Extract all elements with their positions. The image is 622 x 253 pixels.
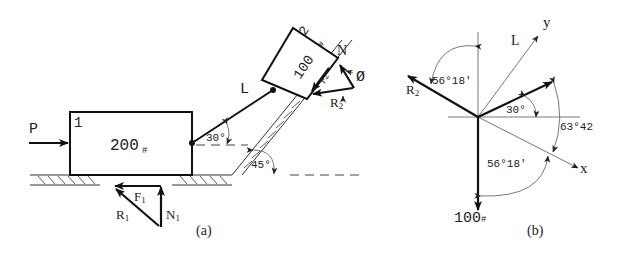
caption-a: (a) <box>196 223 212 239</box>
angle-45-label: 45° <box>251 159 271 171</box>
block-1: 1 200 # <box>70 112 192 175</box>
angle-30-label: 30° <box>206 132 226 144</box>
phi-label: Ø <box>356 69 365 86</box>
r1-label: R1 <box>116 207 129 223</box>
block-1-weight-unit: # <box>142 146 148 156</box>
link-l-label: L <box>240 81 249 98</box>
figure-a: 1 200 # P L 30° <box>29 23 365 239</box>
angle-weight-label: 56°18' <box>487 158 527 170</box>
angle-30-label-b: 30° <box>506 104 526 116</box>
figure-b: y x L 30° R2 56°18' 100# 56°18' 63°42 (b… <box>406 14 593 239</box>
x-axis-label: x <box>580 160 588 176</box>
force-p-label: P <box>29 121 38 138</box>
caption-b: (b) <box>527 223 544 239</box>
force-triangle-1: F1 R1 N1 <box>115 186 180 227</box>
statics-diagram: 1 200 # P L 30° <box>0 0 622 253</box>
r2-vector-label: R2 <box>406 82 419 98</box>
f1-label: F1 <box>134 189 146 205</box>
vector-l-label: L <box>511 33 520 48</box>
y-axis-label: y <box>543 14 551 30</box>
angle-r2-label: 56°18' <box>432 75 472 87</box>
n1-label: N1 <box>166 207 180 223</box>
block-1-weight: 200 <box>110 137 139 155</box>
block-1-number: 1 <box>74 115 82 131</box>
ground-surface <box>30 175 362 185</box>
r2-label: R2 <box>330 95 343 111</box>
n-label: N <box>337 43 347 58</box>
force-p: P <box>29 121 68 143</box>
weight-label: 100# <box>454 210 487 227</box>
angle-63-label: 63°42 <box>560 121 593 133</box>
